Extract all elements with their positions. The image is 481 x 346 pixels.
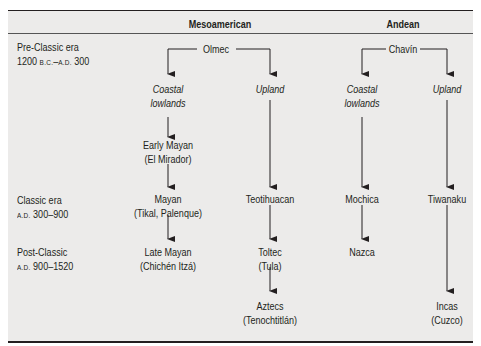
node-incas: Incas(Cuzco) xyxy=(431,299,463,327)
node-mayan: Mayan(Tikal, Palenque) xyxy=(134,192,202,220)
node-aztecs: Aztecs(Tenochtitlán) xyxy=(243,299,297,327)
node-andean-coastal-lowlands: Coastallowlands xyxy=(344,82,379,110)
node-mochica: Mochica xyxy=(345,192,379,206)
node-early-mayan: Early Mayan(El Mirador) xyxy=(143,138,193,166)
node-andean-upland: Upland xyxy=(433,82,462,96)
node-nazca: Nazca xyxy=(349,245,375,259)
node-tiwanaku: Tiwanaku xyxy=(428,192,466,206)
node-toltec: Toltec(Tula) xyxy=(258,245,282,273)
node-meso-coastal-lowlands: Coastallowlands xyxy=(150,82,185,110)
node-late-mayan: Late Mayan(Chichén Itzá) xyxy=(140,245,196,273)
node-chavin: Chavín xyxy=(389,42,418,56)
node-olmec: Olmec xyxy=(203,42,229,56)
node-meso-upland: Upland xyxy=(256,82,285,96)
node-teotihuacan: Teotihuacan xyxy=(246,192,295,206)
